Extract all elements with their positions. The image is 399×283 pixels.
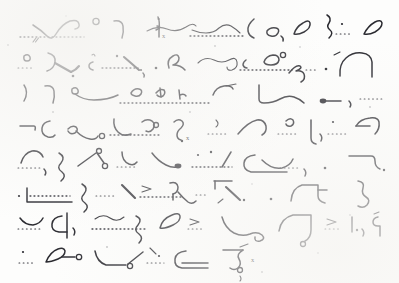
shorthand-line-1: x xyxy=(20,15,382,42)
x-annotation: x xyxy=(251,256,255,263)
shorthand-line-3 xyxy=(24,84,382,107)
x-annotation: x xyxy=(186,134,190,141)
shorthand-line-5 xyxy=(18,149,385,182)
shorthand-ink-layer: x xyxy=(0,0,399,283)
shorthand-line-8: x xyxy=(19,244,263,281)
manuscript-page: x xyxy=(0,0,399,283)
x-annotation: x xyxy=(162,32,166,39)
shorthand-line-7 xyxy=(18,212,380,247)
shorthand-line-6 xyxy=(18,181,369,212)
shorthand-line-2 xyxy=(18,52,372,82)
shorthand-line-4: x xyxy=(20,118,379,144)
